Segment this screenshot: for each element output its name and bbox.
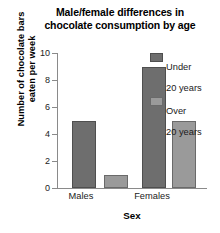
legend-item-over-20: Over 20 years bbox=[150, 95, 220, 137]
chart-title-line-1: Male/female differences in bbox=[26, 6, 214, 19]
x-tick-label-males: Males bbox=[56, 191, 106, 201]
y-tick-label-2: 2 bbox=[36, 157, 50, 166]
legend-label-over-20-line-2: 20 years bbox=[166, 127, 202, 137]
legend-swatch-under-20-icon bbox=[150, 53, 163, 62]
y-tick-label-4: 4 bbox=[36, 130, 50, 139]
y-tick-label-0: 0 bbox=[36, 184, 50, 193]
bar-males-under-20 bbox=[72, 121, 96, 189]
x-axis-line bbox=[57, 188, 207, 189]
legend-swatch-over-20-icon bbox=[150, 97, 163, 106]
y-axis-title-line-1: Number of chocolate bars bbox=[16, 0, 27, 139]
y-axis-tick-labels: 10 8 6 4 2 0 bbox=[36, 0, 50, 233]
bar-chart: Male/female differences in chocolate con… bbox=[0, 0, 220, 233]
bar-males-over-20 bbox=[104, 175, 128, 189]
y-tick-label-6: 6 bbox=[36, 103, 50, 112]
legend-item-under-20: Under 20 years bbox=[150, 51, 220, 93]
legend-label-over-20-line-1: Over bbox=[166, 106, 186, 116]
chart-legend: Under 20 years Over 20 years bbox=[150, 51, 220, 139]
chart-title-line-2: chocolate consumption by age bbox=[26, 19, 214, 32]
y-tick-label-10: 10 bbox=[36, 49, 50, 58]
chart-title: Male/female differences in chocolate con… bbox=[26, 6, 214, 31]
x-tick-label-females: Females bbox=[124, 191, 180, 201]
legend-label-under-20-line-2: 20 years bbox=[166, 83, 202, 93]
y-tick-label-8: 8 bbox=[36, 76, 50, 85]
x-axis-title: Sex bbox=[57, 210, 207, 221]
legend-label-under-20-line-1: Under bbox=[166, 62, 191, 72]
